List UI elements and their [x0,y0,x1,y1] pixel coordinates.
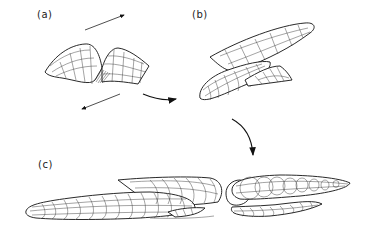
elongated-sheath-c [26,177,222,220]
sheath-fold-b [200,23,314,100]
diagram-canvas [0,0,367,238]
transition-arrow-a-to-b [143,94,176,100]
shear-arrow-top [85,15,124,30]
wavy-surface-a [45,44,149,84]
transition-arrow-b-to-c [232,119,253,155]
shear-arrow-bottom [82,94,120,109]
sheath-cross-sections-c [226,175,350,217]
